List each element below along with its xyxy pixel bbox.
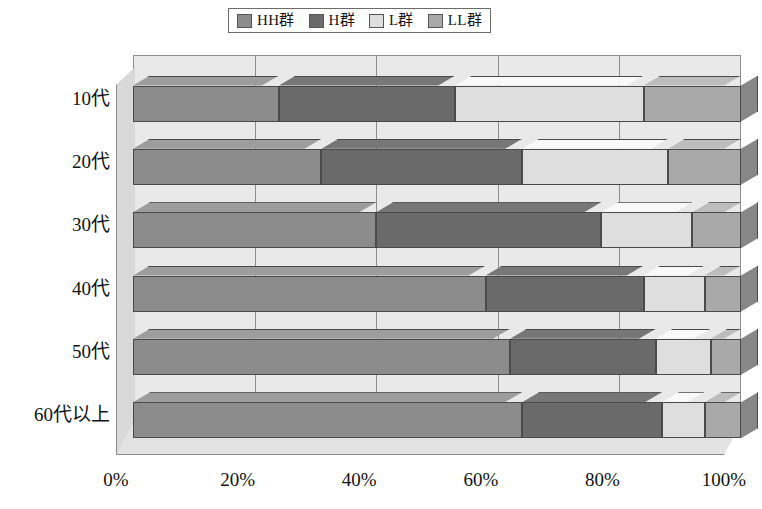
bar-segment-H群 <box>486 276 644 312</box>
bar-segment-front <box>133 149 321 185</box>
bar-segment-front <box>644 276 705 312</box>
bar-segment-side <box>741 139 758 185</box>
bar-segment-top <box>711 329 741 339</box>
bar-segment-front <box>705 276 741 312</box>
bar-segment-top <box>376 202 601 212</box>
bar-segment-side <box>741 329 758 375</box>
bar-segment-LL群 <box>711 339 741 375</box>
bar-segment-L群 <box>656 339 711 375</box>
bar-segment-front <box>455 86 643 122</box>
bar-segment-HH群 <box>133 149 321 185</box>
bar-segment-top <box>133 266 486 276</box>
bar-segment-front <box>133 86 279 122</box>
bar-segment-top <box>133 392 522 402</box>
x-axis-label: 40% <box>319 470 399 489</box>
bar-segment-top <box>279 76 455 86</box>
bar-row <box>116 76 741 122</box>
bar-segment-front <box>522 402 662 438</box>
bar-segment-H群 <box>279 86 455 122</box>
bar-segment-top <box>601 202 692 212</box>
legend-item-hh: HH群 <box>237 13 295 28</box>
bar-segment-L群 <box>455 86 643 122</box>
y-axis-labels: 10代20代30代40代50代60代以上 <box>0 0 110 509</box>
bar-row <box>116 202 741 248</box>
bar-segment-top <box>510 329 656 339</box>
bar-segment-top <box>522 392 662 402</box>
bar-segment-HH群 <box>133 212 376 248</box>
bar-segment-H群 <box>376 212 601 248</box>
bar-segment-top <box>133 329 510 339</box>
bar-segment-top <box>692 202 741 212</box>
bar-segment-top <box>455 76 643 86</box>
bar-row <box>116 266 741 312</box>
legend-label-hh: HH群 <box>257 13 295 28</box>
bar-segment-HH群 <box>133 402 522 438</box>
bar-segment-front <box>644 86 741 122</box>
bar-segment-front <box>486 276 644 312</box>
y-axis-label: 30代 <box>72 215 110 234</box>
bar-segment-front <box>321 149 522 185</box>
bar-segment-front <box>133 212 376 248</box>
bar-segment-front <box>279 86 455 122</box>
bar-segment-top <box>486 266 644 276</box>
bar-segment-LL群 <box>668 149 741 185</box>
bar-segment-top <box>644 266 705 276</box>
bar-segment-top <box>705 266 741 276</box>
bar-segment-top <box>705 392 741 402</box>
bar-segment-top <box>522 139 668 149</box>
bar-segment-top <box>133 202 376 212</box>
y-axis-label: 50代 <box>72 342 110 361</box>
bar-segment-H群 <box>510 339 656 375</box>
y-axis-label: 60代以上 <box>34 405 110 424</box>
bar-segment-front <box>711 339 741 375</box>
bar-segment-H群 <box>321 149 522 185</box>
bar-segment-front <box>133 402 522 438</box>
bar-segment-L群 <box>644 276 705 312</box>
bar-segment-H群 <box>522 402 662 438</box>
bar-segment-L群 <box>522 149 668 185</box>
bar-segment-front <box>662 402 705 438</box>
x-axis-label: 0% <box>76 470 156 489</box>
legend-item-l: L群 <box>369 13 414 28</box>
bar-segment-L群 <box>662 402 705 438</box>
bar-segment-HH群 <box>133 276 486 312</box>
bar-segment-front <box>668 149 741 185</box>
bar-segment-front <box>376 212 601 248</box>
bar-segment-LL群 <box>705 276 741 312</box>
x-axis-label: 80% <box>562 470 642 489</box>
legend-swatch-l-icon <box>369 14 384 28</box>
bar-segment-side <box>741 392 758 438</box>
bar-row <box>116 392 741 438</box>
bar-segment-top <box>644 76 741 86</box>
legend-item-ll: LL群 <box>428 13 482 28</box>
bar-segment-front <box>133 339 510 375</box>
legend-swatch-h-icon <box>309 14 324 28</box>
bar-segment-front <box>656 339 711 375</box>
bar-row <box>116 139 741 185</box>
legend-label-l: L群 <box>389 13 414 28</box>
bar-segment-top <box>321 139 522 149</box>
bar-segment-LL群 <box>705 402 741 438</box>
legend-label-ll: LL群 <box>448 13 482 28</box>
bar-segment-side <box>741 266 758 312</box>
legend-swatch-ll-icon <box>428 14 443 28</box>
bar-segment-top <box>133 139 321 149</box>
bar-segment-HH群 <box>133 339 510 375</box>
bar-segment-LL群 <box>644 86 741 122</box>
bar-segment-side <box>741 202 758 248</box>
x-axis-label: 100% <box>684 470 762 489</box>
y-axis-label: 20代 <box>72 152 110 171</box>
legend-label-h: H群 <box>329 13 355 28</box>
legend-swatch-hh-icon <box>237 14 252 28</box>
bar-segment-L群 <box>601 212 692 248</box>
bar-row <box>116 329 741 375</box>
y-axis-label: 10代 <box>72 89 110 108</box>
bar-segment-top <box>133 76 279 86</box>
bar-segment-top <box>656 329 711 339</box>
bar-segment-front <box>692 212 741 248</box>
bar-segment-side <box>741 76 758 122</box>
bar-segment-top <box>668 139 741 149</box>
bar-segment-HH群 <box>133 86 279 122</box>
bar-segment-front <box>601 212 692 248</box>
bar-segment-front <box>510 339 656 375</box>
